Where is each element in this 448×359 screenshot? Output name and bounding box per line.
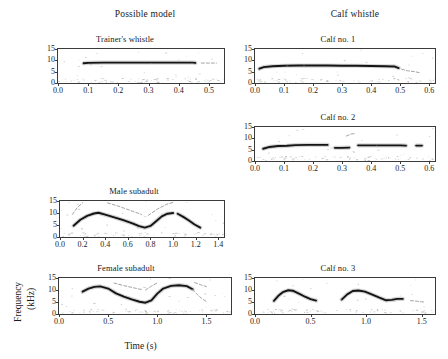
x-tick-mark	[60, 238, 61, 240]
x-tick-mark	[157, 315, 158, 317]
y-tick-mark	[252, 150, 254, 151]
y-tick-label: 10	[42, 286, 56, 294]
x-tick-mark	[255, 315, 256, 317]
y-tick-mark	[252, 290, 254, 291]
x-tick-label: 0.2	[308, 87, 318, 95]
column-header-possible-model: Possible model	[60, 9, 230, 19]
x-tick-label: 0.5	[204, 87, 214, 95]
x-tick-mark	[196, 238, 197, 240]
x-tick-label: 0.1	[279, 87, 289, 95]
y-tick-label: 10	[238, 56, 252, 64]
y-tick-mark	[55, 49, 57, 50]
x-tick-mark	[429, 162, 430, 164]
panel-calf-no-3: Calf no. 3 051015 0.00.51.01.5	[232, 263, 444, 327]
x-tick-label: 0.4	[100, 241, 110, 249]
y-tick-label: 15	[42, 274, 56, 282]
y-tick-label: 5	[42, 298, 56, 306]
x-tick-mark	[284, 162, 285, 164]
x-tick-label: 0.6	[123, 241, 133, 249]
y-tick-mark	[252, 72, 254, 73]
x-tick-label: 0.6	[424, 87, 434, 95]
x-tick-label: 0.3	[337, 87, 347, 95]
x-tick-mark	[128, 238, 129, 240]
x-tick-mark	[400, 162, 401, 164]
x-tick-label: 0.0	[53, 87, 63, 95]
x-tick-label: 0.5	[306, 318, 316, 326]
y-tick-mark	[252, 49, 254, 50]
x-tick-mark	[342, 84, 343, 86]
y-tick-label: 15	[238, 123, 252, 131]
x-tick-label: 1.5	[417, 318, 427, 326]
x-tick-mark	[400, 84, 401, 86]
y-tick-label: 10	[238, 286, 252, 294]
spectrogram-trace	[59, 278, 231, 314]
x-tick-mark	[313, 84, 314, 86]
series-down-sweep-tail	[193, 289, 207, 301]
spectrogram-trace	[255, 278, 435, 314]
x-tick-mark	[218, 238, 219, 240]
y-tick-mark	[252, 83, 254, 84]
x-tick-label: 0.6	[424, 165, 434, 173]
x-axis-label-time: Time (s)	[58, 341, 223, 351]
y-tick-mark	[252, 127, 254, 128]
x-tick-label: 0.4	[366, 165, 376, 173]
panel-title: Calf no. 1	[232, 34, 444, 44]
x-tick-label: 0.4	[174, 87, 184, 95]
x-tick-label: 0.2	[113, 87, 123, 95]
plot-area	[254, 126, 436, 162]
x-tick-label: 1.0	[152, 318, 162, 326]
x-tick-label: 1.5	[201, 318, 211, 326]
series-harmonic-fragment	[346, 134, 355, 137]
x-tick-label: 1.0	[361, 318, 371, 326]
y-tick-label: 15	[43, 197, 57, 205]
y-tick-mark	[252, 302, 254, 303]
x-tick-label: 0.0	[250, 318, 260, 326]
x-tick-label: 0.5	[395, 165, 405, 173]
x-tick-mark	[313, 162, 314, 164]
spectrogram-trace	[255, 127, 435, 161]
x-tick-label: 0.8	[145, 241, 155, 249]
x-tick-mark	[371, 84, 372, 86]
y-tick-mark	[56, 302, 58, 303]
x-tick-label: 0.4	[366, 87, 376, 95]
y-tick-label: 5	[43, 221, 57, 229]
y-tick-mark	[56, 290, 58, 291]
x-tick-mark	[255, 84, 256, 86]
y-tick-mark	[57, 237, 59, 238]
y-tick-label: 5	[238, 68, 252, 76]
panel-calf-no-2: Calf no. 2 051015 0.00.10.20.30.40.50.6	[232, 112, 444, 174]
y-tick-mark	[55, 83, 57, 84]
x-tick-label: 0.0	[250, 87, 260, 95]
y-tick-label: 5	[238, 298, 252, 306]
y-tick-label: 15	[41, 45, 55, 53]
series-fundamental	[84, 63, 196, 64]
panel-calf-no-1: Calf no. 1 051015 0.00.10.20.30.40.50.6	[232, 34, 444, 96]
y-tick-mark	[57, 201, 59, 202]
panel-title: Female subadult	[20, 263, 232, 273]
x-tick-mark	[342, 162, 343, 164]
x-tick-mark	[58, 84, 59, 86]
y-tick-label: 5	[238, 146, 252, 154]
x-tick-label: 0.1	[83, 87, 93, 95]
x-tick-label: 1.2	[191, 241, 201, 249]
y-tick-label: 10	[41, 56, 55, 64]
x-tick-mark	[422, 315, 423, 317]
y-tick-label: 10	[238, 134, 252, 142]
x-tick-mark	[209, 84, 210, 86]
x-tick-label: 0.5	[103, 318, 113, 326]
x-tick-mark	[149, 84, 150, 86]
y-tick-label: 15	[238, 274, 252, 282]
x-tick-mark	[108, 315, 109, 317]
x-tick-mark	[284, 84, 285, 86]
y-tick-label: 10	[43, 209, 57, 217]
y-tick-label: 5	[41, 68, 55, 76]
series-harmonic-b	[145, 283, 157, 290]
y-tick-mark	[56, 278, 58, 279]
series-fundamental-smear	[83, 285, 193, 303]
y-tick-mark	[252, 314, 254, 315]
panel-title: Calf no. 3	[232, 263, 444, 273]
figure-root: Possible model Calf whistle Frequency (k…	[0, 0, 448, 359]
panel-female-subadult: Female subadult 051015 0.00.51.01.5	[20, 263, 232, 327]
panel-title: Male subadult	[30, 186, 238, 196]
background-noise	[61, 278, 231, 314]
